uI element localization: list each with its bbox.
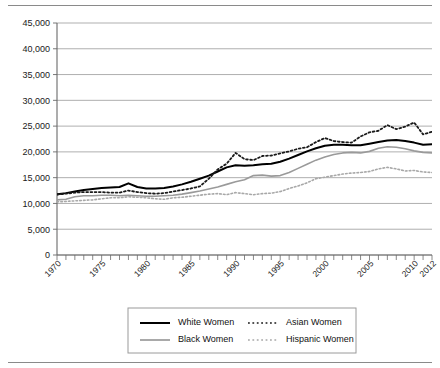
ytick-label: 45,000 [22, 18, 50, 28]
legend-label-asian-women: Asian Women [286, 317, 342, 327]
series-line-white-women [57, 140, 432, 194]
xtick-label: 1990 [221, 258, 242, 279]
legend-label-hispanic-women: Hispanic Women [286, 334, 354, 344]
legend-label-black-women: Black Women [178, 334, 233, 344]
line-chart: 05,00010,00015,00020,00025,00030,00035,0… [0, 0, 440, 368]
ytick-label: 35,000 [22, 70, 50, 80]
ytick-label: 10,000 [22, 199, 50, 209]
figure-container: 05,00010,00015,00020,00025,00030,00035,0… [0, 0, 440, 368]
xtick-label: 2000 [310, 258, 331, 279]
series-line-hispanic-women [57, 167, 432, 202]
ytick-label: 5,000 [27, 225, 50, 235]
ytick-label: 20,000 [22, 147, 50, 157]
xtick-label: 1985 [176, 258, 197, 279]
ytick-label: 25,000 [22, 121, 50, 131]
legend-label-white-women: White Women [178, 317, 234, 327]
xtick-label: 1975 [87, 258, 108, 279]
xtick-label: 2005 [355, 258, 376, 279]
xtick-label: 2012 [417, 258, 438, 279]
ytick-label: 40,000 [22, 44, 50, 54]
xtick-label: 1995 [266, 258, 287, 279]
legend-box [128, 308, 356, 353]
ytick-label: 0 [45, 250, 50, 260]
xtick-label: 2010 [400, 258, 421, 279]
ytick-label: 15,000 [22, 173, 50, 183]
xtick-label: 1970 [42, 258, 63, 279]
ytick-label: 30,000 [22, 96, 50, 106]
xtick-label: 1980 [132, 258, 153, 279]
series-line-asian-women [57, 123, 432, 195]
